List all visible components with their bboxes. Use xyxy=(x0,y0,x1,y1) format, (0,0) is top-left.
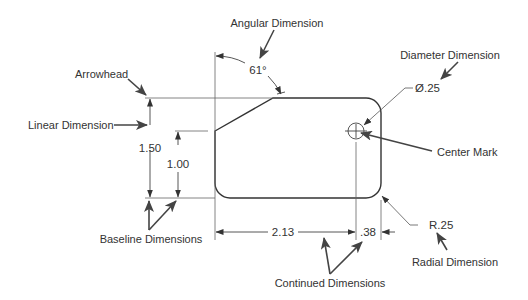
label-diameter-dimension: Diameter Dimension xyxy=(400,49,500,61)
dim-height-total: 1.50 xyxy=(139,142,161,154)
label-center-mark: Center Mark xyxy=(437,146,498,158)
dim-radius: R.25 xyxy=(429,219,453,231)
dim-width-offset: .38 xyxy=(360,226,376,238)
drawing-canvas: 1.50 1.00 2.13 .38 61° Ø.25 R.25 Angular… xyxy=(0,0,528,300)
label-continued-dimensions: Continued Dimensions xyxy=(275,277,386,289)
diameter-leader xyxy=(364,88,413,125)
dim-height-partial: 1.00 xyxy=(167,158,189,170)
dim-width-main: 2.13 xyxy=(272,226,294,238)
dim-diameter: Ø.25 xyxy=(415,82,440,94)
label-arrowhead: Arrowhead xyxy=(75,68,128,80)
label-baseline-dimensions: Baseline Dimensions xyxy=(100,233,203,245)
label-angular-dimension: Angular Dimension xyxy=(231,17,324,29)
radius-leader xyxy=(382,196,418,225)
label-linear-dimension: Linear Dimension xyxy=(28,119,114,131)
hole-center-mark xyxy=(345,123,367,139)
dim-angle: 61° xyxy=(249,64,266,76)
extension-lines xyxy=(145,52,381,240)
label-radial-dimension: Radial Dimension xyxy=(412,256,498,268)
